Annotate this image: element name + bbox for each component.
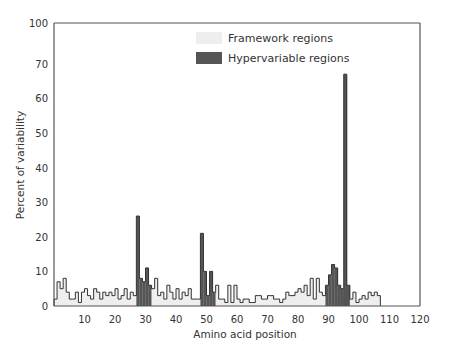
framework-bar: [185, 296, 188, 306]
x-tick-label: 20: [109, 314, 122, 325]
legend-swatch-framework: [196, 32, 222, 44]
y-tick-label: 60: [35, 93, 48, 104]
framework-bar: [69, 299, 72, 306]
framework-bar: [60, 289, 63, 306]
variability-outline: [54, 74, 380, 306]
y-tick-label: 40: [35, 163, 48, 174]
x-tick-label: 120: [410, 314, 429, 325]
framework-bar: [91, 299, 94, 306]
x-tick-label: 30: [139, 314, 152, 325]
framework-bar: [264, 299, 267, 306]
y-tick-label: 0: [42, 301, 48, 312]
framework-bar: [191, 299, 194, 306]
legend-label-hypervariable: Hypervariable regions: [228, 52, 350, 65]
framework-bar: [118, 299, 121, 306]
framework-bar: [158, 296, 161, 306]
x-tick-label: 80: [292, 314, 305, 325]
framework-bar: [173, 299, 176, 306]
framework-bar: [194, 299, 197, 306]
framework-bar: [289, 296, 292, 306]
legend-swatch-hypervariable: [196, 52, 222, 64]
x-tick-label: 110: [380, 314, 399, 325]
x-tick-label: 50: [200, 314, 213, 325]
framework-bar: [274, 299, 277, 306]
hypervariable-bar: [139, 278, 142, 306]
hypervariable-bar: [142, 282, 145, 306]
variability-chart: 0102030405060701001020304050607080901001…: [0, 0, 449, 358]
x-tick-label: 40: [170, 314, 183, 325]
y-tick-label: 50: [35, 128, 48, 139]
framework-bar: [179, 299, 182, 306]
legend-label-framework: Framework regions: [228, 32, 333, 45]
framework-bar: [365, 299, 368, 306]
y-tick-label: 10: [35, 266, 48, 277]
framework-bar: [322, 296, 325, 306]
x-axis-label: Amino acid position: [193, 328, 296, 340]
framework-bar: [371, 296, 374, 306]
x-tick-label: 70: [261, 314, 274, 325]
y-tick-label: 100: [29, 18, 48, 29]
legend: Framework regions Hypervariable regions: [196, 32, 350, 65]
framework-bar: [100, 299, 103, 306]
x-tick-label: 100: [349, 314, 368, 325]
framework-bar: [197, 299, 200, 306]
y-axis-label: Percent of variability: [14, 111, 26, 219]
framework-bar: [152, 289, 155, 306]
framework-bar: [292, 296, 295, 306]
framework-bar: [313, 299, 316, 306]
hypervariable-bar: [213, 292, 216, 306]
framework-bar: [127, 299, 130, 306]
hypervariable-bar: [207, 296, 210, 306]
x-tick-label: 90: [322, 314, 335, 325]
y-tick-label: 20: [35, 232, 48, 243]
x-tick-label: 60: [231, 314, 244, 325]
plot-area: [54, 74, 381, 306]
framework-bar: [350, 299, 353, 306]
framework-bar: [106, 296, 109, 306]
framework-bar: [261, 299, 264, 306]
framework-bar: [307, 296, 310, 306]
x-tick-label: 10: [78, 314, 91, 325]
framework-bar: [112, 296, 115, 306]
framework-bar: [72, 299, 75, 306]
framework-bar: [219, 299, 222, 306]
framework-bar: [133, 296, 136, 306]
hypervariable-bar: [341, 289, 344, 306]
framework-bar: [164, 299, 167, 306]
y-tick-label: 70: [35, 59, 48, 70]
framework-bar: [301, 292, 304, 306]
y-tick-label: 30: [35, 197, 48, 208]
